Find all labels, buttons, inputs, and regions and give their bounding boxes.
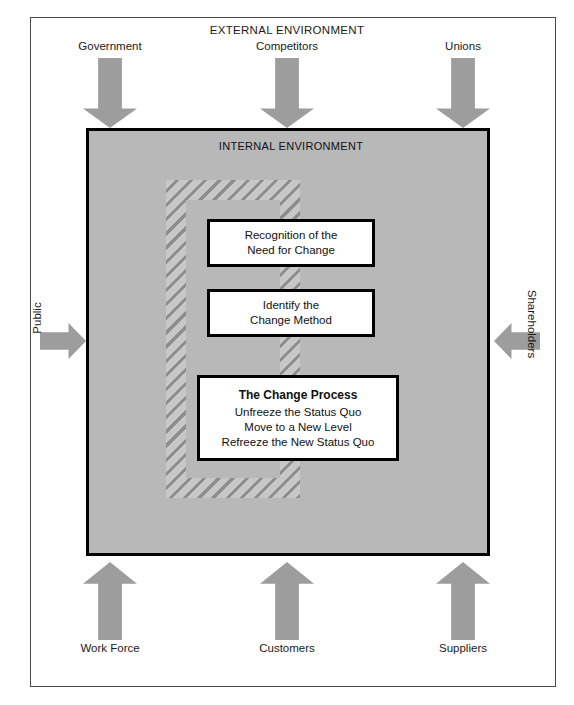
side-label-shareholders: Shareholders (526, 279, 538, 369)
top-label-government: Government (60, 40, 160, 52)
process-box-identify-line-1: Identify the (263, 298, 319, 313)
side-label-public: Public (31, 278, 43, 358)
process-box-change-process-line-1: Unfreeze the Status Quo (235, 405, 362, 420)
process-box-recognition: Recognition of the Need for Change (207, 219, 375, 267)
process-box-change-process-headline: The Change Process (239, 386, 358, 405)
process-box-identify-line-2: Change Method (250, 313, 332, 328)
process-box-change-process-line-2: Move to a New Level (244, 420, 351, 435)
process-box-change-process: The Change Process Unfreeze the Status Q… (197, 375, 399, 461)
external-environment-title: EXTERNAL ENVIRONMENT (0, 24, 574, 36)
process-box-recognition-line-2: Need for Change (247, 243, 335, 258)
bottom-label-suppliers: Suppliers (413, 642, 513, 654)
internal-environment-panel: INTERNAL ENVIRONMENT Recognition of the … (86, 128, 490, 556)
top-label-competitors: Competitors (237, 40, 337, 52)
bottom-label-work-force: Work Force (60, 642, 160, 654)
process-box-identify: Identify the Change Method (207, 289, 375, 337)
top-label-unions: Unions (413, 40, 513, 52)
process-box-recognition-line-1: Recognition of the (245, 228, 338, 243)
process-box-change-process-line-3: Refreeze the New Status Quo (222, 435, 375, 450)
diagram-canvas: EXTERNAL ENVIRONMENT Government Competit… (0, 0, 574, 705)
internal-environment-title: INTERNAL ENVIRONMENT (89, 140, 493, 152)
bottom-label-customers: Customers (237, 642, 337, 654)
